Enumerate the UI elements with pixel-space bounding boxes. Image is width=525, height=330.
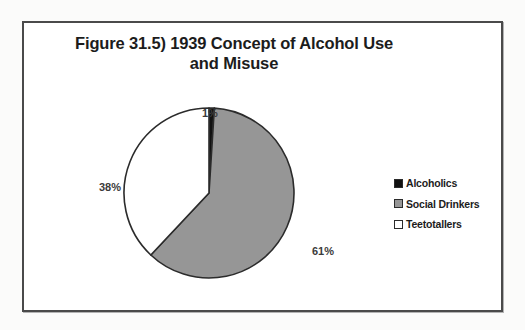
chart-frame: Figure 31.5) 1939 Concept of Alcohol Use… [22,21,503,312]
legend-item-social-drinkers: Social Drinkers [394,199,502,210]
data-label-social-drinkers: 61% [312,245,334,257]
legend-swatch-teetotallers-icon [394,220,403,229]
legend-swatch-social-drinkers-icon [394,199,403,208]
legend-label-alcoholics: Alcoholics [406,178,457,189]
plot-area: 1% 38% 61% Alcoholics Social Drinkers Te… [24,23,505,310]
chart-legend: Alcoholics Social Drinkers Teetotallers [394,178,502,240]
legend-swatch-alcoholics-icon [394,179,403,188]
legend-label-teetotallers: Teetotallers [406,219,462,230]
pie-slices-group [124,108,294,278]
legend-label-social-drinkers: Social Drinkers [406,199,479,210]
data-label-alcoholics: 1% [202,107,218,119]
data-label-teetotallers: 38% [99,181,121,193]
chart-page: Figure 31.5) 1939 Concept of Alcohol Use… [0,0,525,330]
legend-item-alcoholics: Alcoholics [394,178,502,189]
legend-item-teetotallers: Teetotallers [394,219,502,230]
